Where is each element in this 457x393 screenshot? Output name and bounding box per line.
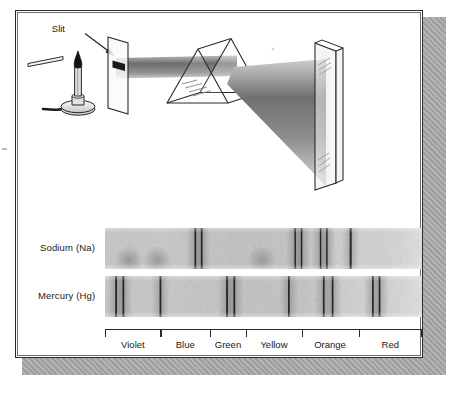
axis-tick <box>302 329 303 337</box>
color-band-label-orange: Orange <box>314 339 346 350</box>
color-axis-labels: VioletBlueGreenYellowOrangeRed <box>105 339 422 353</box>
spectrum-row-label-mercury: Mercury (Hg) <box>38 290 95 301</box>
apparatus-diagram: Slit <box>15 10 423 220</box>
sample-rod <box>28 57 63 67</box>
slit-screen <box>108 37 128 114</box>
axis-tick <box>210 329 211 337</box>
axis-tick <box>421 329 422 337</box>
spectrum-band-sodium <box>105 228 422 269</box>
axis-tick <box>105 329 106 337</box>
color-band-label-red: Red <box>382 339 399 350</box>
color-axis <box>105 329 422 339</box>
color-band-label-yellow: Yellow <box>260 339 287 350</box>
speck-artifact <box>272 48 275 51</box>
edge-artifact <box>2 148 7 150</box>
spectrum-row-label-sodium: Sodium (Na) <box>40 242 95 253</box>
flame <box>74 51 82 68</box>
viewing-screen <box>315 40 343 190</box>
axis-tick <box>246 329 247 337</box>
axis-tick <box>160 329 161 337</box>
color-band-label-green: Green <box>215 339 241 350</box>
axis-tick <box>359 329 360 337</box>
slit-label: Slit <box>52 23 66 34</box>
color-band-label-violet: Violet <box>121 339 145 350</box>
dispersed-beam <box>227 59 326 186</box>
color-band-label-blue: Blue <box>176 339 195 350</box>
axis-rule <box>105 329 422 330</box>
burner-tube <box>75 67 82 96</box>
figure-root: Slit <box>0 0 457 393</box>
spectrum-band-mercury <box>105 276 422 317</box>
